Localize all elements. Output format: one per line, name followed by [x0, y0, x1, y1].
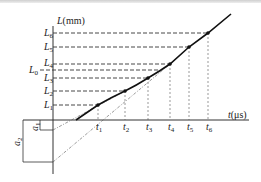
horizontal-guides	[40, 33, 208, 105]
y-label-L1: L1	[44, 100, 53, 112]
x-axis-title: t(μs)	[228, 110, 247, 120]
y-label-L5: L5	[44, 42, 53, 54]
data-points	[96, 31, 210, 107]
y-label-L0: L0	[29, 65, 38, 77]
x-label-t3: t3	[146, 122, 152, 134]
extrapolation-lines	[53, 64, 170, 162]
x-label-t4: t4	[168, 122, 174, 134]
offset-label-a1: a1	[30, 123, 42, 132]
offset-label-a2: a2	[12, 138, 24, 147]
y-label-L6: L6	[44, 28, 53, 40]
x-label-t2: t2	[123, 122, 129, 134]
y-label-L2: L2	[44, 86, 53, 98]
y-label-L4: L4	[44, 58, 53, 70]
x-label-t6: t6	[206, 122, 212, 134]
x-label-t5: t5	[187, 122, 193, 134]
y-label-L3: L3	[44, 73, 53, 85]
y-axis-title: L(mm)	[57, 16, 85, 26]
x-label-t1: t1	[96, 122, 102, 134]
diagram-canvas	[0, 0, 261, 182]
